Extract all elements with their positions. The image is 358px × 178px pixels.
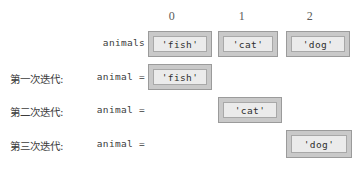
- list-variable-label: animals: [83, 37, 145, 48]
- list-cell-0-value: 'fish': [153, 36, 207, 52]
- iteration-1-step-label: 第一次迭代:: [10, 71, 90, 86]
- iteration-2-value-box: 'cat': [218, 97, 282, 123]
- iteration-1-variable-label: animal =: [83, 71, 145, 82]
- column-index-0: 0: [152, 9, 192, 24]
- iteration-2-value: 'cat': [223, 102, 277, 118]
- iteration-3-value: 'dog': [291, 135, 347, 153]
- list-cell-0: 'fish': [148, 31, 212, 57]
- list-cell-2: 'dog': [286, 31, 350, 57]
- iteration-2-variable-label: animal =: [83, 104, 145, 115]
- list-cell-2-value: 'dog': [291, 36, 345, 52]
- iteration-2-step-label: 第二次迭代:: [10, 104, 90, 119]
- iteration-3-variable-label: animal =: [83, 138, 145, 149]
- iteration-3-value-box: 'dog': [286, 130, 352, 158]
- column-index-2: 2: [290, 9, 330, 24]
- column-index-1: 1: [222, 9, 262, 24]
- diagram-canvas: 0 1 2 animals 'fish' 'cat' 'dog' 第一次迭代: …: [0, 0, 358, 178]
- iteration-1-value-box: 'fish': [148, 64, 212, 90]
- iteration-3-step-label: 第三次迭代:: [10, 138, 90, 153]
- list-cell-1: 'cat': [218, 31, 278, 57]
- iteration-1-value: 'fish': [153, 69, 207, 85]
- list-cell-1-value: 'cat': [223, 36, 273, 52]
